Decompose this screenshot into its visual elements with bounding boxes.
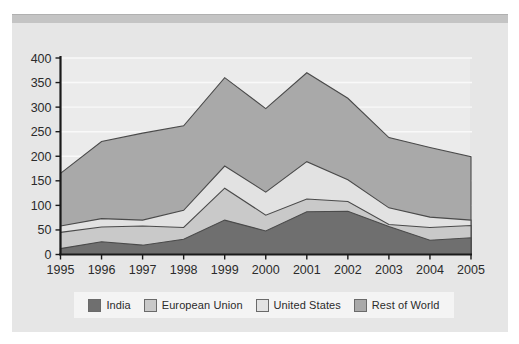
y-tick-label: 350 [31,76,52,90]
x-axis-tick-labels: 1995199619971998199920002001200220032004… [47,263,485,277]
y-tick-label: 400 [31,52,52,66]
legend-swatch-icon [354,299,367,312]
legend-item: European Union [144,299,243,312]
legend-swatch-icon [88,299,101,312]
legend-label: United States [274,299,341,311]
y-tick-label: 150 [31,174,52,188]
x-tick-label: 2005 [457,263,485,277]
x-tick-label: 1997 [129,263,157,277]
chart-page: 050100150200250300350400 199519961997199… [0,0,519,344]
y-tick-label: 100 [31,199,52,213]
x-tick-label: 2002 [334,263,362,277]
x-tick-label: 2000 [252,263,280,277]
legend-label: India [106,299,130,311]
y-tick-label: 250 [31,125,52,139]
plot-wrapper: 050100150200250300350400 199519961997199… [12,14,508,332]
legend-label: European Union [162,299,243,311]
legend-label: Rest of World [372,299,440,311]
x-tick-label: 2004 [416,263,444,277]
legend-swatch-icon [144,299,157,312]
y-tick-label: 200 [31,150,52,164]
legend-swatch-icon [256,299,269,312]
x-tick-label: 1995 [47,263,75,277]
x-tick-label: 1996 [88,263,116,277]
x-tick-label: 1998 [170,263,198,277]
y-tick-label: 300 [31,101,52,115]
stacked-area-chart: 050100150200250300350400 199519961997199… [12,14,508,332]
y-tick-label: 0 [45,248,52,262]
x-tick-label: 1999 [211,263,239,277]
legend-item: Rest of World [354,299,440,312]
legend-item: United States [256,299,341,312]
chart-legend: IndiaEuropean UnionUnited StatesRest of … [74,292,454,318]
x-tick-label: 2001 [293,263,321,277]
legend-item: India [88,299,130,312]
x-tick-label: 2003 [375,263,403,277]
figure-panel: 050100150200250300350400 199519961997199… [12,14,508,332]
y-tick-label: 50 [38,223,52,237]
y-axis-tick-labels: 050100150200250300350400 [31,52,52,263]
